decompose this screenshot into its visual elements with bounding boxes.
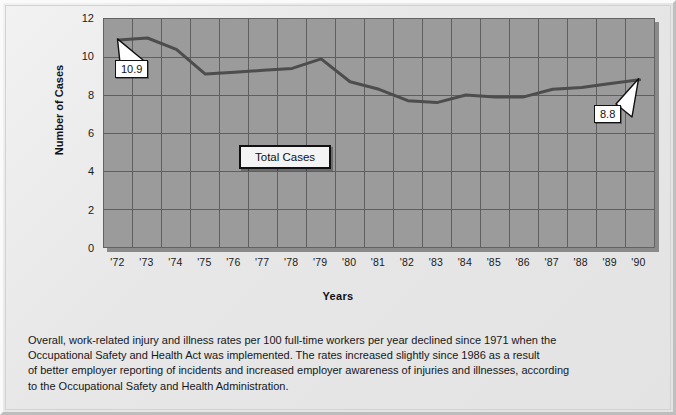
figure-caption: Overall, work-related injury and illness…	[28, 333, 650, 394]
last-point-callout: 8.8	[594, 105, 621, 123]
x-axis-title: Years	[0, 290, 676, 302]
caption-line-2: Occupational Safety and Health Act was i…	[28, 348, 650, 363]
y-axis-tick-label: 2	[64, 205, 94, 216]
plot-panel	[103, 18, 655, 248]
series-legend-label: Total Cases	[239, 145, 331, 169]
y-axis-tick-label: 0	[64, 243, 94, 254]
chart-figure: Number of Cases 121086420 '72'73'74'75'7…	[0, 0, 676, 415]
x-axis-ticks: '72'73'74'75'76'77'78'79'80'81'82'83'84'…	[103, 256, 655, 272]
x-axis-tick-label: '90	[622, 256, 656, 268]
y-axis-ticks: 121086420	[58, 0, 94, 270]
first-point-callout: 10.9	[115, 60, 148, 78]
y-axis-tick-label: 8	[64, 90, 94, 101]
chart-area: Number of Cases 121086420 '72'73'74'75'7…	[0, 0, 676, 330]
caption-line-3: of better employer reporting of incident…	[28, 363, 650, 378]
plot-svg	[104, 19, 654, 247]
y-axis-tick-label: 12	[64, 13, 94, 24]
data-series-line	[118, 38, 639, 103]
y-axis-tick-label: 6	[64, 128, 94, 139]
y-axis-tick-label: 4	[64, 166, 94, 177]
caption-line-4: to the Occupational Safety and Health Ad…	[28, 379, 650, 394]
y-axis-tick-label: 10	[64, 51, 94, 62]
caption-line-1: Overall, work-related injury and illness…	[28, 333, 650, 348]
